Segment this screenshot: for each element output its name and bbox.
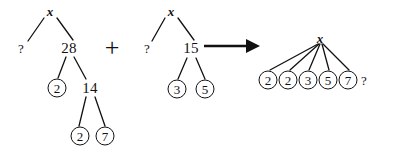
right-arrow-icon bbox=[204, 37, 260, 59]
result-prime-2: 2 bbox=[279, 71, 298, 90]
edge-result-4 bbox=[322, 44, 329, 70]
edge-result-5 bbox=[323, 44, 349, 70]
result-prime-1: 2 bbox=[259, 71, 278, 90]
right-tree-node-15: 15 bbox=[183, 41, 199, 56]
left-tree-node-28: 28 bbox=[61, 41, 77, 56]
result-prime-5: 7 bbox=[339, 71, 358, 90]
result-prime-4: 5 bbox=[319, 71, 338, 90]
right-tree-root-label: x bbox=[168, 5, 175, 18]
edge-right-root-q bbox=[152, 18, 165, 41]
edge-right-root-15 bbox=[178, 18, 194, 40]
edge-result-1 bbox=[270, 44, 318, 70]
left-tree-root-label: x bbox=[47, 5, 54, 18]
right-tree-prime-5: 5 bbox=[196, 80, 215, 99]
factor-tree-figure: x ? 28 2 14 2 7 + x ? 15 3 5 x 2 2 3 5 7… bbox=[0, 0, 398, 156]
left-tree-prime-2b: 2 bbox=[71, 127, 90, 146]
left-tree-prime-2a: 2 bbox=[48, 79, 67, 98]
edge-left-28-2 bbox=[58, 57, 66, 78]
result-tree-root-label: x bbox=[317, 32, 324, 45]
edge-left-root-28 bbox=[57, 18, 73, 40]
edge-result-3 bbox=[309, 44, 320, 70]
result-unknown-factor: ? bbox=[361, 74, 367, 87]
edge-result-2 bbox=[290, 44, 319, 70]
result-prime-3: 3 bbox=[299, 71, 318, 90]
left-tree-node-14: 14 bbox=[82, 81, 98, 96]
edge-left-14-7 bbox=[95, 97, 105, 126]
right-tree-unknown-factor: ? bbox=[144, 42, 150, 55]
right-tree-prime-3: 3 bbox=[168, 80, 187, 99]
edge-right-15-5 bbox=[196, 58, 205, 79]
edge-right-15-3 bbox=[178, 58, 187, 79]
plus-operator: + bbox=[105, 35, 120, 61]
edge-left-28-14 bbox=[74, 57, 86, 79]
edge-left-root-q bbox=[28, 18, 44, 41]
left-tree-prime-7: 7 bbox=[96, 127, 115, 146]
edge-left-14-2 bbox=[79, 97, 86, 126]
left-tree-unknown-factor: ? bbox=[18, 42, 24, 55]
